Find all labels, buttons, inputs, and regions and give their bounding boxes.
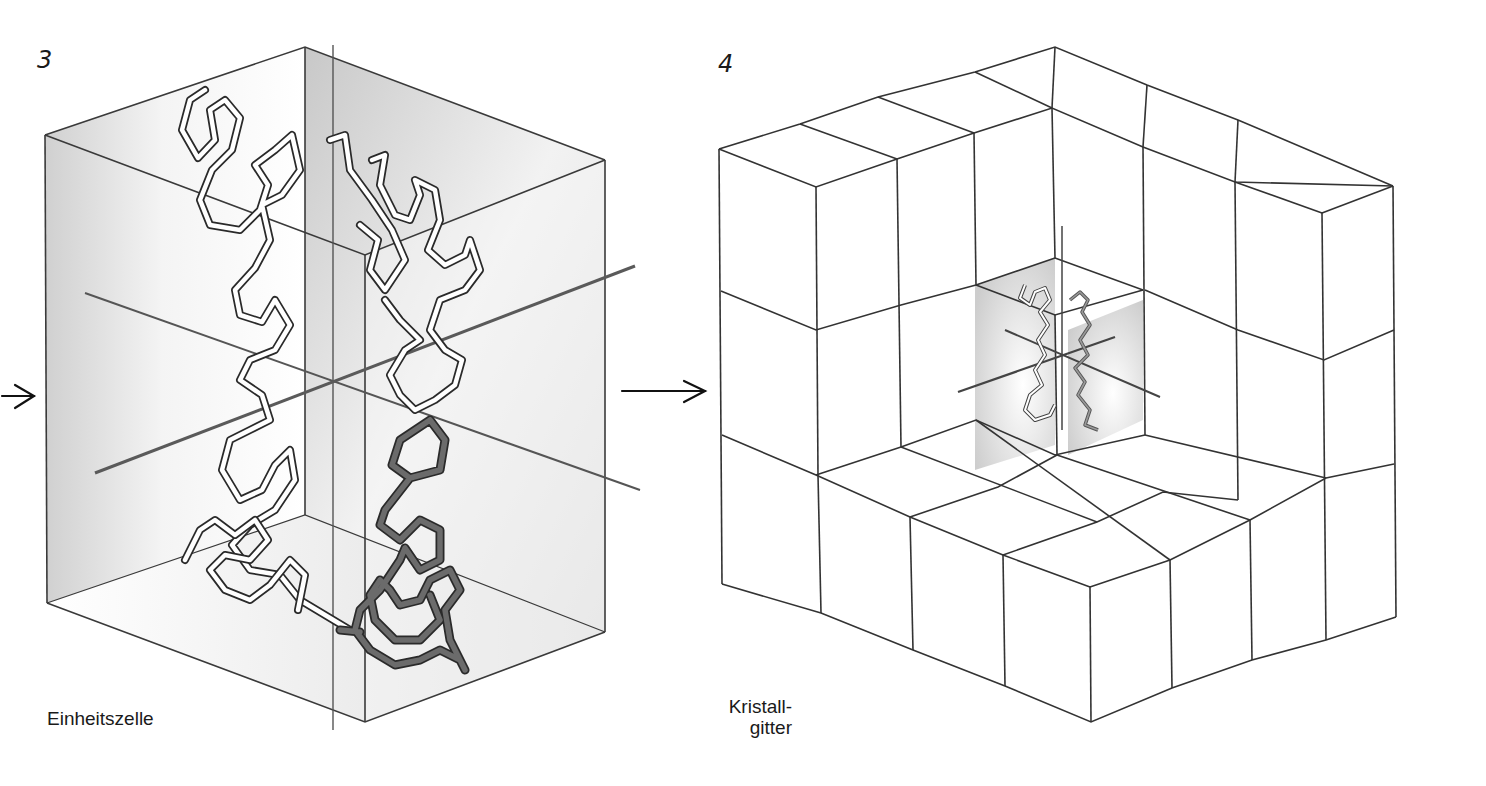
unit-cell-figure	[45, 45, 640, 730]
crystal-lattice-figure	[719, 47, 1396, 722]
diagram-canvas	[0, 0, 1486, 786]
transition-arrow	[622, 381, 705, 402]
highlighted-cell-shade-right	[1068, 300, 1143, 455]
incoming-arrow	[2, 385, 34, 408]
lattice-edges	[719, 47, 1396, 722]
